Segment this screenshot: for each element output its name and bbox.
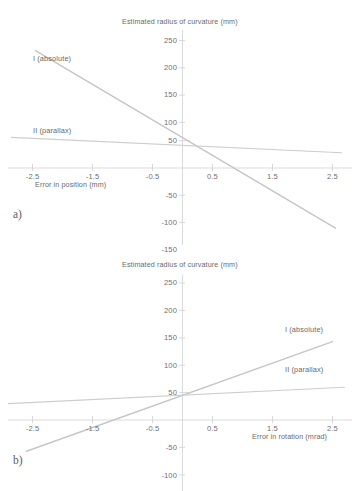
y-axis-title-b: Estimated radius of curvature (mm) <box>122 260 238 269</box>
x-axis-title-a: Error in position (mm) <box>35 180 106 189</box>
plot-svg-a <box>0 0 354 245</box>
y-tick-label: 250 <box>150 36 177 45</box>
y-tick-label: 100 <box>150 361 177 370</box>
y-tick-label: -100 <box>150 218 177 227</box>
y-tick-label: 100 <box>150 118 177 127</box>
x-tick-label: -1.5 <box>78 424 107 433</box>
x-tick-label: -2.5 <box>18 424 47 433</box>
x-tick-label: -2.5 <box>18 172 47 181</box>
y-tick-label: 150 <box>150 90 177 99</box>
x-tick-label: 0.5 <box>198 172 227 181</box>
series-label-i-absolute: I (absolute) <box>33 54 71 63</box>
y-tick-label: 50 <box>150 388 177 397</box>
figure-a: Estimated radius of curvature (mm) Error… <box>0 0 354 245</box>
series-label-i-absolute: I (absolute) <box>285 325 323 334</box>
panel-label-a: a) <box>13 208 22 220</box>
panel-label-b: b) <box>13 454 23 466</box>
series-label-ii-parallax: II (parallax) <box>33 126 71 135</box>
y-tick-marks <box>179 283 190 475</box>
x-axis-title-b: Error in rotation (mrad) <box>252 432 327 441</box>
x-tick-label: 0.5 <box>198 424 227 433</box>
y-tick-label: 50 <box>150 136 177 145</box>
figure-b: Estimated radius of curvature (mm) Error… <box>0 245 354 491</box>
y-axis-title-a: Estimated radius of curvature (mm) <box>122 17 238 26</box>
y-tick-label: -100 <box>150 471 177 480</box>
x-tick-label: 2.5 <box>318 424 347 433</box>
y-tick-label: 200 <box>150 63 177 72</box>
y-tick-marks <box>179 41 190 223</box>
y-tick-label: -50 <box>150 443 177 452</box>
y-tick-label: -50 <box>150 191 177 200</box>
y-tick-label: 250 <box>150 278 177 287</box>
x-tick-label: -1.5 <box>78 172 107 181</box>
series-label-ii-parallax: II (parallax) <box>285 365 323 374</box>
x-tick-label: 1.5 <box>258 172 287 181</box>
x-tick-label: -0.5 <box>138 424 167 433</box>
x-tick-label: 1.5 <box>258 424 287 433</box>
series-line-i-absolute <box>36 51 336 229</box>
x-tick-label: 2.5 <box>318 172 347 181</box>
plot-area-a <box>0 0 354 245</box>
y-tick-label: 150 <box>150 333 177 342</box>
y-tick-label: 200 <box>150 306 177 315</box>
x-tick-label: -0.5 <box>138 172 167 181</box>
